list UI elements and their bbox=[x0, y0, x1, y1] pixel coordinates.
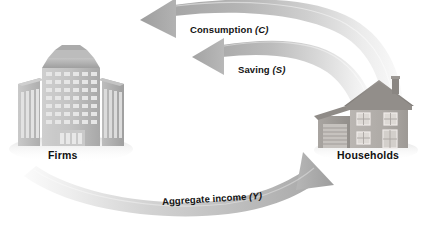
flow-label-consumption-symbol: (C) bbox=[255, 24, 269, 35]
circular-flow-diagram: Consumption (C) Saving (S) Aggregate inc… bbox=[0, 0, 429, 231]
entity-label-firms: Firms bbox=[48, 149, 78, 161]
flow-label-consumption-text: Consumption bbox=[190, 24, 252, 35]
flow-label-consumption: Consumption (C) bbox=[190, 24, 269, 35]
arrowhead-consumption bbox=[140, 0, 176, 38]
flow-label-saving-text: Saving bbox=[238, 64, 270, 75]
flow-arrow-saving bbox=[192, 38, 377, 126]
flow-label-aggregate-income-symbol: (Y) bbox=[249, 190, 263, 202]
arrowhead-aggregate-income bbox=[296, 152, 334, 190]
office-building-icon bbox=[9, 45, 133, 162]
flow-label-saving-symbol: (S) bbox=[273, 64, 286, 75]
flow-label-saving: Saving (S) bbox=[238, 64, 285, 75]
entity-label-households: Households bbox=[337, 149, 399, 161]
arrowhead-saving bbox=[192, 38, 224, 75]
